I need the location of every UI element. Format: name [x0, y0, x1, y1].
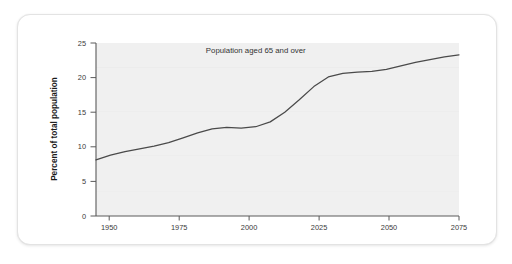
line-chart: 0 5 10 15 20 25 19: [18, 15, 498, 246]
x-axis-tick-labels: 1950 1975 2000 2025 2050 2075: [101, 223, 467, 232]
y-tick-label-5: 5: [82, 177, 86, 186]
x-tick-label-2025: 2025: [311, 223, 327, 232]
x-tick-label-2050: 2050: [381, 223, 397, 232]
y-tick-label-10: 10: [78, 142, 86, 151]
chart-canvas: 0 5 10 15 20 25 19: [18, 15, 498, 246]
y-tick-label-20: 20: [78, 73, 86, 82]
y-tick-label-25: 25: [78, 39, 86, 48]
page-root: 0 5 10 15 20 25 19: [0, 0, 512, 264]
x-axis-ticks: [109, 216, 459, 221]
x-tick-label-2075: 2075: [451, 223, 467, 232]
x-tick-label-2000: 2000: [241, 223, 257, 232]
x-tick-label-1950: 1950: [101, 223, 117, 232]
y-axis-tick-labels: 0 5 10 15 20 25: [78, 39, 86, 221]
y-axis-ticks: [91, 43, 97, 216]
y-axis-title: Percent of total population: [50, 77, 59, 181]
y-tick-label-15: 15: [78, 108, 86, 117]
x-tick-label-1975: 1975: [171, 223, 187, 232]
figure-card: 0 5 10 15 20 25 19: [17, 14, 497, 245]
series-annotation-label: Population aged 65 and over: [206, 46, 306, 55]
plot-background: [96, 43, 459, 216]
y-tick-label-0: 0: [82, 212, 86, 221]
